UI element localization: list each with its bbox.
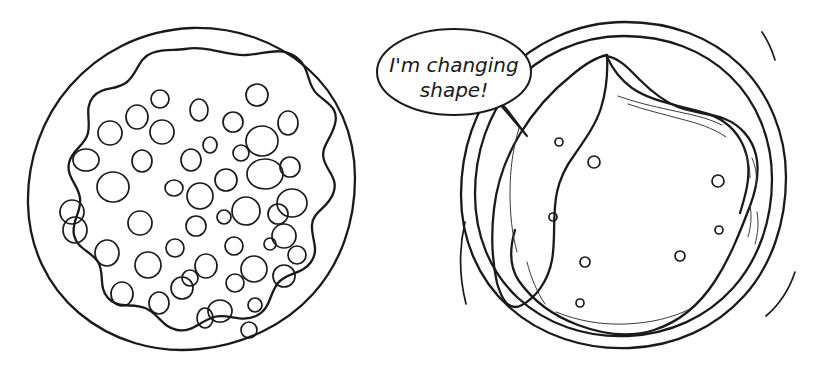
left-cell-vacuole xyxy=(135,252,161,278)
left-cell-vacuole xyxy=(272,224,296,248)
left-cell-vacuole xyxy=(128,211,152,235)
right-cell-granule-group xyxy=(549,138,724,307)
left-cell-vacuole xyxy=(98,121,122,145)
left-cell-vacuole xyxy=(181,149,201,171)
left-cell-vacuole xyxy=(186,216,206,236)
left-cell-vacuole xyxy=(223,112,243,132)
left-cell-vacuole xyxy=(187,183,213,209)
right-cell-granule xyxy=(715,226,723,234)
left-cell-vacuole xyxy=(241,322,257,338)
speech-bubble-line-1: I'm changing xyxy=(389,53,518,77)
left-cell-vacuole xyxy=(150,120,174,144)
right-cell-wisp xyxy=(527,262,545,304)
right-cell-granule xyxy=(588,156,600,168)
left-cell-vacuole xyxy=(95,240,119,266)
left-cell-vacuole xyxy=(126,105,148,129)
left-cell-vacuole xyxy=(149,292,169,314)
right-cell-granule xyxy=(576,299,584,307)
left-cell-vacuole xyxy=(111,282,133,306)
left-cell-vacuole xyxy=(226,274,244,292)
right-cell-wisp-group xyxy=(510,96,758,324)
left-cell-vacuole xyxy=(151,90,169,108)
left-cell-vacuole xyxy=(248,298,262,312)
left-cell-vacuole xyxy=(241,256,267,282)
left-cell-vacuole xyxy=(280,157,300,177)
left-cell-vacuole xyxy=(225,237,243,255)
left-cell-vacuole xyxy=(215,169,237,191)
right-cell-granule xyxy=(675,251,685,261)
speech-bubble-tail xyxy=(498,102,527,136)
right-cell-wisp xyxy=(618,96,722,125)
left-cell-vacuole xyxy=(246,126,278,156)
left-cell-vacuole xyxy=(97,172,129,202)
left-cell-vacuole xyxy=(247,159,283,189)
left-cell-vacuole xyxy=(217,210,231,224)
right-cell-notch-wave xyxy=(607,57,748,213)
right-cell-granule xyxy=(580,257,590,267)
left-cell-vacuole xyxy=(165,180,183,196)
right-cell-granule xyxy=(549,213,557,221)
left-cell-vacuole xyxy=(73,149,99,171)
left-cell-vacuole xyxy=(246,84,268,106)
left-cell-vacuole xyxy=(190,99,208,121)
left-cell-vacuole xyxy=(277,189,307,217)
left-cell-vacuole xyxy=(132,150,152,172)
right-cell-granule xyxy=(555,138,563,146)
left-cell-vacuole xyxy=(203,137,217,153)
left-cell-vacuole xyxy=(60,200,84,224)
right-cell-granule xyxy=(712,175,724,187)
right-cell-wisp xyxy=(755,212,758,244)
left-cell-group: I'm changing shape! xyxy=(0,0,826,378)
left-cell-vacuole xyxy=(273,265,295,287)
cell-shape-illustration: I'm changing shape! xyxy=(0,0,826,378)
left-cell-vacuole xyxy=(278,111,298,135)
left-cell-vacuole xyxy=(195,254,217,278)
motion-arc-top-right xyxy=(762,32,775,60)
left-cell-vacuole xyxy=(288,246,306,264)
right-cell-wisp xyxy=(556,309,690,324)
motion-arc-bottom-right xyxy=(766,272,795,316)
speech-bubble-line-2: shape! xyxy=(420,78,488,102)
left-cell-vacuole xyxy=(166,239,184,257)
left-cell-vacuole xyxy=(232,197,260,225)
